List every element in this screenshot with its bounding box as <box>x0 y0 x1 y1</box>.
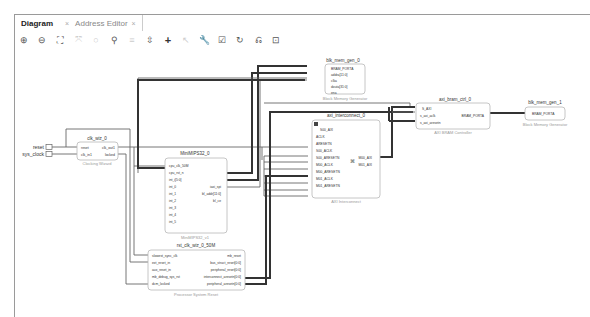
block-name: blk_mem_gen_1 <box>528 100 562 105</box>
block-name: blk_mem_gen_0 <box>326 58 360 63</box>
pin-label: int_2 <box>169 199 176 203</box>
block-blk-mem-gen-1[interactable]: blk_mem_gen_1 BRAM_PORTA Block Memory Ge… <box>523 100 568 127</box>
pin-label: int_3 <box>169 206 176 210</box>
pin-label: douta[31:0] <box>331 85 348 89</box>
pin-label: S_AXI <box>422 107 431 111</box>
pin-label: cpu_clk_50M <box>169 164 189 168</box>
pin-label: iaxi_spi <box>210 185 221 189</box>
block-axi-interconnect[interactable]: axi_interconnect_0 S00_AXI ACLK ARESETN … <box>312 113 380 204</box>
pin-label: aux_reset_in <box>152 268 171 272</box>
pin-label: S00_ACLK <box>316 149 333 153</box>
port-reset-label: reset <box>33 144 45 150</box>
pin-label: interconnect_aresetn[0:0] <box>204 275 241 279</box>
pin-label: int_1 <box>169 192 176 196</box>
pin-label: int_i[5:0] <box>169 178 182 182</box>
pin-label: clk_in1 <box>81 153 92 157</box>
pin-label: dcm_locked <box>152 282 170 286</box>
block-type: Processor System Reset <box>174 292 219 297</box>
pin-label: clka <box>331 79 337 83</box>
pin-label: mb_reset <box>227 254 241 258</box>
pin-label: peripheral_reset[0:0] <box>211 268 241 272</box>
pin-label: M01_ARESETN <box>316 184 340 188</box>
pin-label: s_axi_aresetn <box>420 121 441 125</box>
pin-label: peripheral_aresetn[0:0] <box>207 282 241 286</box>
pin-label: int_4 <box>169 213 176 217</box>
block-type: MiniMIPS32_v1 <box>181 235 210 240</box>
pin-label: M00_ACLK <box>316 163 334 167</box>
pin-label: int_0 <box>169 185 176 189</box>
block-type: Block Memory Generator <box>523 122 568 127</box>
pin-label: M01_ACLK <box>316 177 334 181</box>
expand-icon[interactable] <box>314 122 318 126</box>
pin-label: cpu_rst_n <box>169 171 184 175</box>
block-name: MiniMIPS32_0 <box>180 151 210 156</box>
crossbar-icon: ⌘ <box>350 158 355 164</box>
pin-label: clk_out1 <box>102 146 115 150</box>
pin-label: ena <box>331 91 337 95</box>
block-name: axi_interconnect_0 <box>327 113 365 118</box>
pin-label: M00_ARESETN <box>316 170 340 174</box>
block-name: rst_clk_wiz_0_50M <box>177 243 216 248</box>
pin-label: BRAM_PORTA <box>331 67 354 71</box>
block-type: Block Memory Generator <box>323 96 368 101</box>
pin-label: slowest_sync_clk <box>152 254 178 258</box>
block-type: AXI BRAM Controller <box>434 130 472 135</box>
pin-label: int_5 <box>169 220 176 224</box>
block-minimips32[interactable]: MiniMIPS32_0 cpu_clk_50M cpu_rst_n int_i… <box>165 151 227 240</box>
block-proc-sys-reset[interactable]: rst_clk_wiz_0_50M slowest_sync_clk ext_r… <box>148 243 245 297</box>
pin-label: M00_AXI <box>358 156 372 160</box>
pin-label: ARESETN <box>316 142 332 146</box>
port-reset[interactable] <box>46 145 52 150</box>
pin-label: mb_debug_sys_rst <box>152 275 180 279</box>
pin-label: bl_ce <box>213 199 221 203</box>
block-type: Clocking Wizard <box>83 161 112 166</box>
pin-label: ACLK <box>316 135 325 139</box>
pin-label: bl_addr[11:0] <box>202 192 221 196</box>
port-sys-clock-label: sys_clock <box>22 151 44 157</box>
pin-label: BRAM_PORTA <box>462 114 485 118</box>
block-name: clk_wiz_0 <box>87 136 107 141</box>
pin-label: S00_ARESETN <box>316 156 340 160</box>
pin-label: M01_AXI <box>358 163 372 167</box>
block-axi-bram-ctrl[interactable]: axi_bram_ctrl_0 S_AXI s_axi_aclk s_axi_a… <box>416 97 490 135</box>
block-type: AXI Interconnect <box>331 199 361 204</box>
pin-label: S00_AXI <box>320 128 333 132</box>
pin-label: BRAM_PORTA <box>532 112 555 116</box>
pin-label: bus_struct_reset[0:0] <box>210 261 241 265</box>
pin-label: s_axi_aclk <box>420 114 436 118</box>
pin-label: addra[11:0] <box>331 73 348 77</box>
block-name: axi_bram_ctrl_0 <box>439 97 472 102</box>
block-clk-wiz[interactable]: clk_wiz_0 reset clk_in1 clk_out1 locked … <box>77 136 118 166</box>
pin-label: reset <box>81 146 89 150</box>
pin-label: ext_reset_in <box>152 261 170 265</box>
external-ports: reset sys_clock <box>22 144 52 157</box>
block-blk-mem-gen-0[interactable]: blk_mem_gen_0 BRAM_PORTA addra[11:0] clk… <box>323 58 368 101</box>
pin-label: locked <box>105 153 115 157</box>
port-sys-clock[interactable] <box>46 152 52 157</box>
